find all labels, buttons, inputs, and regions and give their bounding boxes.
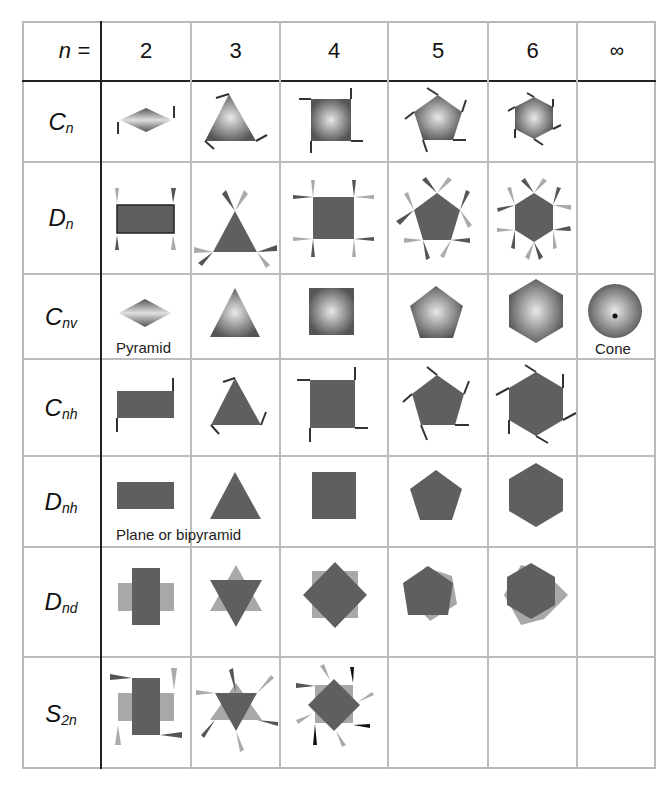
- plane-or-bipyramid-caption: Plane or bipyramid: [116, 526, 241, 543]
- dnd-3-star-icon: [210, 565, 262, 627]
- dnd-4-rotated-squares-icon: [303, 562, 367, 628]
- s2n-4-rotated-squares-propeller-icon: [296, 664, 374, 747]
- cnh-4-square-flags-icon: [297, 367, 368, 442]
- cnv-4-square-icon: [309, 288, 354, 335]
- pyramid-caption: Pyramid: [116, 339, 171, 356]
- cnh-6-hexagon-flags-icon: [496, 365, 576, 443]
- dnh-6-hexagon-icon: [509, 463, 563, 527]
- cn-5-pentagon-icon: [405, 88, 466, 152]
- cnh-2-rectangle-flags-icon: [117, 378, 174, 432]
- dn-5-pentagon-propeller-icon: [396, 177, 472, 260]
- cnv-2-diamond-icon: [119, 299, 171, 327]
- cnh-3-triangle-flags-icon: [211, 378, 266, 434]
- dnh-2-rectangle-icon: [117, 482, 174, 509]
- dn-6-hexagon-propeller-icon: [497, 178, 571, 260]
- cn-6-hexagon-icon: [508, 93, 561, 145]
- dnh-5-pentagon-icon: [410, 470, 462, 520]
- dn-3-triangle-propeller-icon: [194, 190, 277, 268]
- cnv-6-hexagon-icon: [509, 279, 563, 343]
- cn-3-triangle-icon: [205, 94, 267, 149]
- dnh-4-square-icon: [312, 472, 356, 519]
- cone-caption: Cone: [595, 340, 631, 357]
- cn-2-diamond-icon: [118, 106, 174, 134]
- cnv-5-pentagon-icon: [410, 286, 463, 338]
- dnd-5-staggered-pentagons-icon: [403, 566, 457, 621]
- s2n-3-star-propeller-icon: [196, 668, 278, 752]
- shape-diagrams: [0, 0, 668, 792]
- cnv-3-triangle-icon: [210, 288, 260, 337]
- dnh-3-triangle-icon: [210, 472, 261, 519]
- cnv-infinity-cone-icon: [588, 284, 642, 338]
- dn-2-rectangle-propeller-icon: [115, 188, 176, 250]
- cn-4-square-icon: [299, 88, 363, 153]
- dnd-2-cross-rectangles-icon: [118, 568, 174, 625]
- s2n-2-cross-rectangles-propeller-icon: [110, 668, 182, 745]
- dnd-6-staggered-hexagons-icon: [504, 563, 568, 625]
- dn-4-square-propeller-icon: [293, 180, 374, 257]
- cnh-5-pentagon-flags-icon: [403, 367, 469, 440]
